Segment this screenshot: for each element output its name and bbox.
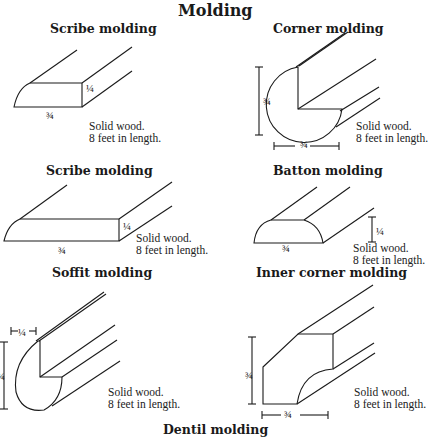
scribe-molding-2-drawing	[4, 182, 172, 241]
corner-molding-drawing	[255, 32, 380, 150]
batton-molding-drawing	[254, 187, 376, 243]
scribe-molding-1-drawing	[14, 47, 132, 107]
inner-corner-molding-drawing	[248, 285, 375, 419]
soffit-molding-drawing	[0, 292, 120, 410]
